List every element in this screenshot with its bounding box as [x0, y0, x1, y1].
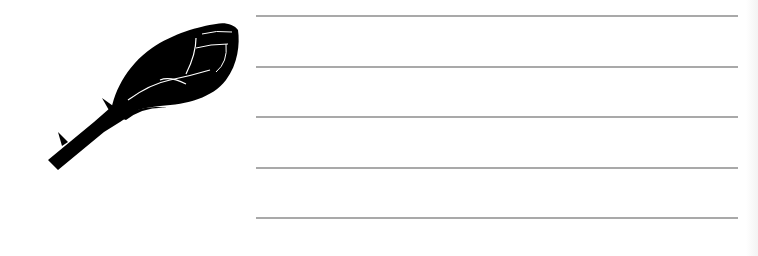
- page-edge-shadow: [746, 0, 758, 256]
- writing-line-2[interactable]: [256, 66, 738, 68]
- rose-bud-silhouette-icon: [40, 14, 245, 174]
- writing-line-4[interactable]: [256, 167, 738, 169]
- writing-line-1[interactable]: [256, 15, 738, 17]
- note-paper: [0, 0, 758, 256]
- writing-line-5[interactable]: [256, 217, 738, 219]
- writing-lines: [256, 0, 738, 256]
- writing-line-3[interactable]: [256, 116, 738, 118]
